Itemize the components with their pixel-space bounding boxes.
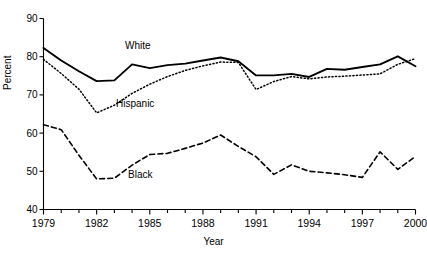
chart-figure: 4050607080901979198219851988199119941997…: [0, 0, 427, 255]
series-label-black: Black: [128, 169, 152, 180]
series-line-black: [44, 125, 416, 179]
y-axis-title: Percent: [2, 56, 13, 90]
y-axis-tick-label: 50: [26, 166, 38, 177]
x-axis-title: Year: [0, 236, 427, 247]
x-axis-tick-label: 2000: [404, 217, 427, 229]
y-axis-tick-label: 80: [26, 51, 38, 62]
x-axis-tick-label: 1994: [298, 217, 322, 229]
y-axis-tick-label: 90: [26, 13, 38, 24]
series-label-white: White: [125, 40, 151, 51]
line-chart-svg: 4050607080901979198219851988199119941997…: [0, 0, 427, 255]
x-axis-tick-label: 1982: [85, 217, 109, 229]
series-label-hispanic: Hispanic: [116, 98, 154, 109]
y-axis-tick-label: 70: [26, 89, 38, 100]
x-axis-tick-label: 1997: [351, 217, 375, 229]
x-axis-tick-label: 1985: [138, 217, 162, 229]
y-axis-tick-label: 60: [26, 128, 38, 139]
x-axis-tick-label: 1988: [191, 217, 215, 229]
x-axis-tick-label: 1979: [32, 217, 56, 229]
y-axis-tick-label: 40: [26, 204, 38, 215]
series-line-white: [44, 48, 416, 81]
x-axis-tick-label: 1991: [244, 217, 268, 229]
